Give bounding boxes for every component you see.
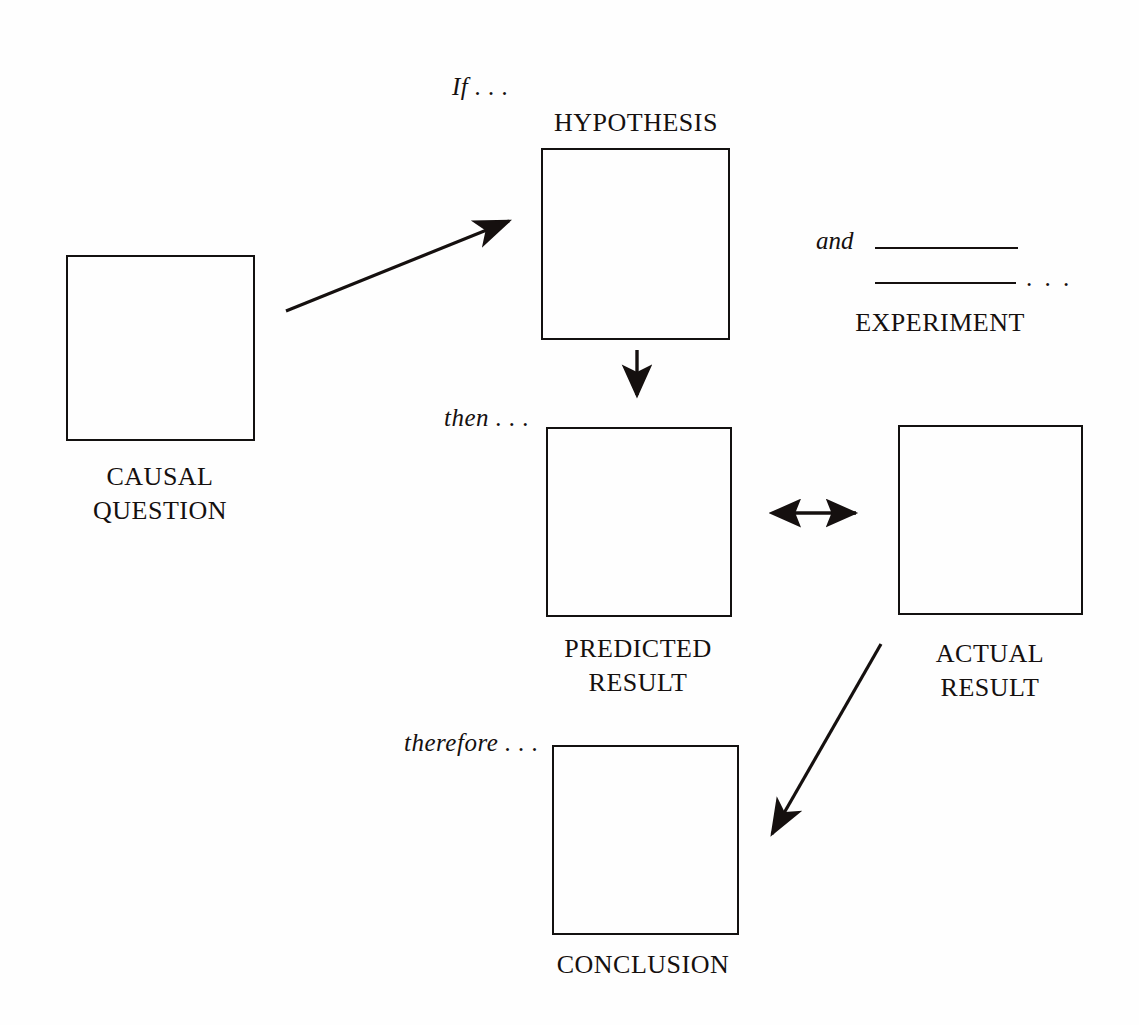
connector-label-if: If . . . [452,73,509,101]
hypothesis-box[interactable] [541,148,730,340]
predicted-result-box[interactable] [546,427,732,617]
diagram-canvas: If . . . HYPOTHESIS CAUSAL QUESTION and … [0,0,1139,1025]
experiment-trailing-dots: . . . [1026,264,1072,292]
hypothesis-caption: HYPOTHESIS [486,106,786,140]
causal-question-caption: CAUSAL QUESTION [10,460,310,528]
actual-result-box[interactable] [898,425,1083,615]
conclusion-caption: CONCLUSION [493,948,793,982]
conclusion-box[interactable] [552,745,739,935]
experiment-blank-line-2[interactable] [875,282,1016,284]
causal-question-box[interactable] [66,255,255,441]
connector-label-then: then . . . [444,404,530,432]
actual-result-caption: ACTUAL RESULT [840,637,1139,705]
connector-label-and: and [816,227,854,255]
experiment-blank-line-1[interactable] [875,247,1018,249]
predicted-result-caption: PREDICTED RESULT [488,632,788,700]
arrow-question-to-hypothesis [286,221,509,311]
connector-label-therefore: therefore . . . [404,729,539,757]
experiment-caption: EXPERIMENT [790,306,1090,340]
